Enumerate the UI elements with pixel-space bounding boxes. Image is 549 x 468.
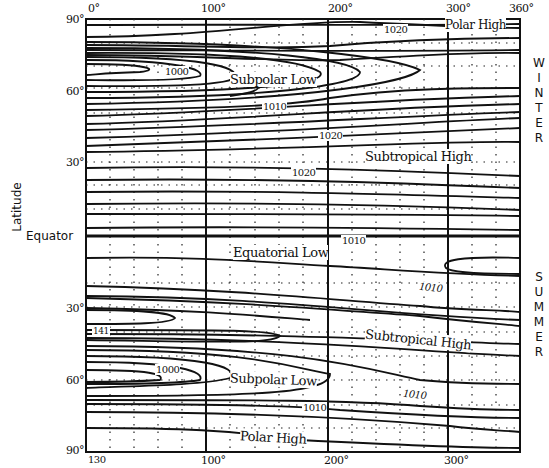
y-tick-s60: 60° xyxy=(66,374,84,387)
x-tick-top-0: 0° xyxy=(88,2,100,15)
region-subtropical-high-winter: Subtropical High xyxy=(365,149,471,164)
y-tick-s90: 90° xyxy=(66,444,84,457)
isobar-label: 141 xyxy=(92,326,110,336)
pressure-belt-chart: 0° 100° 200° 300° 360° 130 100° 200° 300… xyxy=(0,0,549,468)
y-tick-n60: 60° xyxy=(66,85,84,98)
y-tick-s30: 30° xyxy=(66,302,84,315)
isobar-label: 1020 xyxy=(291,167,316,178)
isobar-label: 1010 xyxy=(302,402,327,413)
x-tick-top-100: 100° xyxy=(201,2,226,15)
region-equatorial-low: Equatorial Low xyxy=(233,245,328,260)
x-tick-top-360: 360° xyxy=(509,2,534,15)
x-tick-bottom-300: 300° xyxy=(444,454,469,467)
region-subpolar-low-winter: Subpolar Low xyxy=(230,72,317,87)
x-tick-bottom-200: 200° xyxy=(324,454,349,467)
y-tick-n30: 30° xyxy=(66,156,84,169)
x-tick-bottom-100: 100° xyxy=(201,454,226,467)
isobar-label: 1010 xyxy=(341,235,366,246)
region-subpolar-low-summer: Subpolar Low xyxy=(230,370,317,388)
isobar-label: 1020 xyxy=(383,24,408,35)
isobar-label: 1020 xyxy=(318,130,343,141)
winter-label: W I N T E R xyxy=(533,56,545,146)
isobar-label: 1000 xyxy=(155,364,180,375)
y-axis-title: Latitude xyxy=(10,177,24,237)
plot-area xyxy=(0,0,549,468)
x-tick-bottom-0: 130 xyxy=(88,454,106,465)
y-tick-n90: 90° xyxy=(66,13,84,26)
isobar-label: 1000 xyxy=(164,66,189,77)
summer-label: S U M M E R xyxy=(533,270,545,360)
isobar-label: 1010 xyxy=(262,101,287,112)
x-tick-top-200: 200° xyxy=(328,2,353,15)
x-tick-top-300: 300° xyxy=(446,2,471,15)
y-tick-equator: Equator xyxy=(26,229,73,243)
region-polar-high-winter: Polar High xyxy=(445,18,506,32)
